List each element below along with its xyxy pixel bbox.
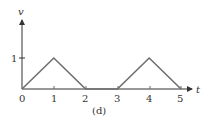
y-axis-label: v xyxy=(18,6,24,17)
x-tick-label-0: 0 xyxy=(19,93,25,104)
x-tick-label-1: 1 xyxy=(51,93,57,104)
y-tick-label-1: 1 xyxy=(11,53,17,64)
chart: v t 1 0 1 2 3 4 5 (d) xyxy=(0,0,208,122)
x-tick-label-3: 3 xyxy=(114,93,120,104)
x-tick-label-4: 4 xyxy=(146,93,152,104)
figure-caption: (d) xyxy=(92,105,106,116)
x-tick-label-5: 5 xyxy=(177,93,183,104)
x-tick-label-2: 2 xyxy=(82,93,88,104)
series-line xyxy=(22,58,181,89)
x-axis-label: t xyxy=(196,84,201,95)
